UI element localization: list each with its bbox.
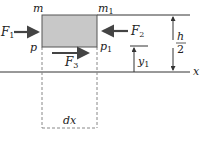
label-m1: m1 [98, 2, 114, 16]
label-p: p [30, 41, 37, 54]
label-dx: dx [63, 114, 77, 127]
label-F1: F1 [0, 25, 14, 40]
label-F2: F2 [130, 24, 144, 39]
label-y1: y1 [137, 55, 149, 69]
label-F3: F3 [64, 55, 78, 70]
fluid-element-box [42, 15, 97, 47]
label-x: x [193, 65, 200, 78]
label-two: 2 [177, 43, 184, 56]
label-m: m [33, 2, 43, 15]
label-h: h [177, 30, 184, 43]
fluid-element-diagram: m m1 F1 F2 F3 p p1 y1 h 2 x dx [0, 0, 203, 141]
label-p1: p1 [100, 40, 112, 54]
